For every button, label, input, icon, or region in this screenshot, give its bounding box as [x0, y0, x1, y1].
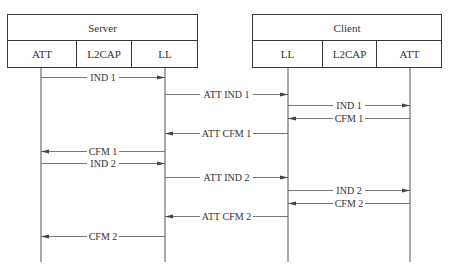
message-label: IND 1 [336, 100, 361, 111]
message-label: CFM 1 [335, 113, 364, 124]
message-arrow: ATT CFM 2 [165, 211, 288, 222]
message-label: CFM 2 [335, 198, 364, 209]
message-label: CFM 1 [89, 146, 118, 157]
message-arrow: IND 1 [41, 72, 165, 83]
sequence-diagram: IND 1ATT IND 1IND 1CFM 1ATT CFM 1CFM 1IN… [0, 0, 449, 273]
message-label: ATT CFM 2 [202, 211, 251, 222]
message-arrow: ATT IND 2 [165, 172, 288, 183]
message-arrow: CFM 1 [41, 146, 165, 157]
message-arrow: IND 2 [41, 158, 165, 169]
message-label: ATT IND 1 [204, 89, 250, 100]
message-label: ATT IND 2 [204, 172, 250, 183]
message-arrow: CFM 1 [288, 113, 410, 124]
message-label: IND 2 [90, 158, 115, 169]
message-arrow: CFM 2 [41, 231, 165, 242]
message-label: IND 2 [336, 185, 361, 196]
message-label: ATT CFM 1 [202, 128, 251, 139]
messages: IND 1ATT IND 1IND 1CFM 1ATT CFM 1CFM 1IN… [41, 72, 410, 242]
message-label: CFM 2 [89, 231, 118, 242]
message-arrow: ATT IND 1 [165, 89, 288, 100]
message-arrow: CFM 2 [288, 198, 410, 209]
message-label: IND 1 [90, 72, 115, 83]
message-arrow: IND 1 [288, 100, 410, 111]
message-arrow: IND 2 [288, 185, 410, 196]
message-arrow: ATT CFM 1 [165, 128, 288, 139]
